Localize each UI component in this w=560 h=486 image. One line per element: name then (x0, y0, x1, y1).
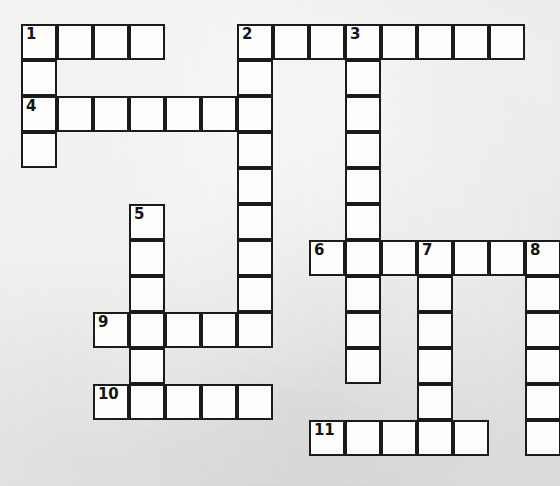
cell-number-label: 5 (134, 206, 144, 223)
crossword-cell[interactable] (129, 240, 165, 276)
crossword-cell[interactable] (165, 312, 201, 348)
crossword-cell[interactable] (57, 96, 93, 132)
cell-number-label: 3 (350, 26, 360, 43)
cell-number-label: 11 (314, 422, 334, 439)
crossword-cell[interactable] (129, 276, 165, 312)
crossword-cell[interactable] (237, 204, 273, 240)
crossword-cell[interactable] (417, 348, 453, 384)
crossword-cell[interactable] (237, 384, 273, 420)
crossword-cell[interactable] (489, 240, 525, 276)
crossword-cell[interactable] (237, 312, 273, 348)
crossword-cell[interactable]: 9 (93, 312, 129, 348)
crossword-cell[interactable] (525, 276, 560, 312)
crossword-cell[interactable]: 7 (417, 240, 453, 276)
crossword-cell[interactable]: 3 (345, 24, 381, 60)
crossword-cell[interactable] (525, 384, 560, 420)
crossword-cell[interactable]: 6 (309, 240, 345, 276)
crossword-cell[interactable] (237, 132, 273, 168)
cell-number-label: 2 (242, 26, 252, 43)
crossword-cell[interactable] (129, 24, 165, 60)
crossword-cell[interactable] (129, 312, 165, 348)
cell-number-label: 9 (98, 314, 108, 331)
crossword-cell[interactable] (345, 348, 381, 384)
crossword-cell[interactable] (201, 384, 237, 420)
crossword-cell[interactable] (273, 24, 309, 60)
crossword-cell[interactable] (345, 240, 381, 276)
crossword-puzzle-page: 1234567891011 (0, 0, 560, 486)
crossword-cell[interactable] (237, 276, 273, 312)
cell-number-label: 10 (98, 386, 118, 403)
crossword-cell[interactable] (165, 384, 201, 420)
crossword-cell[interactable] (237, 96, 273, 132)
crossword-cell[interactable]: 2 (237, 24, 273, 60)
crossword-cell[interactable] (57, 24, 93, 60)
crossword-cell[interactable] (21, 132, 57, 168)
crossword-cell[interactable] (201, 96, 237, 132)
cell-number-label: 7 (422, 242, 432, 259)
crossword-cell[interactable] (21, 60, 57, 96)
crossword-cell[interactable]: 5 (129, 204, 165, 240)
crossword-grid[interactable]: 1234567891011 (0, 0, 560, 486)
crossword-cell[interactable] (345, 276, 381, 312)
crossword-cell[interactable] (345, 204, 381, 240)
cell-number-label: 6 (314, 242, 324, 259)
crossword-cell[interactable] (93, 24, 129, 60)
crossword-cell[interactable] (345, 60, 381, 96)
crossword-cell[interactable] (417, 276, 453, 312)
crossword-cell[interactable] (381, 24, 417, 60)
crossword-cell[interactable] (345, 312, 381, 348)
crossword-cell[interactable] (453, 240, 489, 276)
crossword-cell[interactable] (165, 96, 201, 132)
crossword-cell[interactable] (129, 384, 165, 420)
cell-number-label: 4 (26, 98, 36, 115)
crossword-cell[interactable]: 8 (525, 240, 560, 276)
crossword-cell[interactable] (129, 96, 165, 132)
crossword-cell[interactable] (525, 312, 560, 348)
crossword-cell[interactable]: 10 (93, 384, 129, 420)
crossword-cell[interactable] (489, 24, 525, 60)
crossword-cell[interactable] (525, 348, 560, 384)
crossword-cell[interactable] (417, 24, 453, 60)
crossword-cell[interactable]: 11 (309, 420, 345, 456)
crossword-cell[interactable] (237, 60, 273, 96)
crossword-cell[interactable] (237, 240, 273, 276)
cell-number-label: 1 (26, 26, 36, 43)
crossword-cell[interactable] (417, 312, 453, 348)
crossword-cell[interactable] (345, 168, 381, 204)
crossword-cell[interactable] (453, 24, 489, 60)
crossword-cell[interactable] (93, 96, 129, 132)
crossword-cell[interactable] (237, 168, 273, 204)
crossword-cell[interactable] (345, 420, 381, 456)
crossword-cell[interactable] (417, 384, 453, 420)
crossword-cell[interactable] (381, 240, 417, 276)
crossword-cell[interactable] (381, 420, 417, 456)
crossword-cell[interactable] (417, 420, 453, 456)
crossword-cell[interactable] (309, 24, 345, 60)
crossword-cell[interactable]: 4 (21, 96, 57, 132)
crossword-cell[interactable] (345, 96, 381, 132)
crossword-cell[interactable] (129, 348, 165, 384)
crossword-cell[interactable]: 1 (21, 24, 57, 60)
crossword-cell[interactable] (345, 132, 381, 168)
cell-number-label: 8 (530, 242, 540, 259)
crossword-cell[interactable] (525, 420, 560, 456)
crossword-cell[interactable] (453, 420, 489, 456)
crossword-cell[interactable] (201, 312, 237, 348)
